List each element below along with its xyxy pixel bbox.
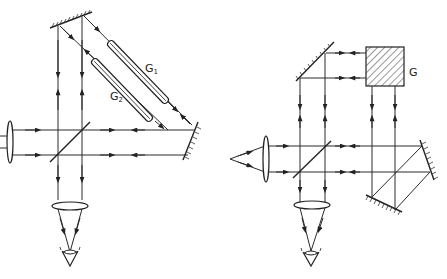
gas-cell-g bbox=[366, 47, 404, 86]
eyepiece-lens-left bbox=[52, 202, 88, 210]
bottom-mirror-right bbox=[366, 195, 402, 215]
top-left-mirror-right bbox=[296, 42, 334, 81]
source-lens-left bbox=[7, 121, 13, 163]
optical-diagram: G1 G2 bbox=[0, 0, 447, 279]
left-interferometer: G1 G2 bbox=[0, 10, 201, 266]
collimating-lens-right bbox=[263, 136, 269, 182]
right-interferometer: G bbox=[230, 42, 438, 266]
eye-left bbox=[60, 247, 80, 266]
label-g1: G1 bbox=[145, 62, 158, 76]
right-mirror-right bbox=[420, 140, 438, 180]
eyepiece-lens-right bbox=[294, 201, 330, 209]
right-mirror-left bbox=[183, 122, 201, 160]
label-g: G bbox=[409, 66, 418, 79]
eye-right bbox=[301, 248, 321, 266]
top-mirror-left bbox=[50, 10, 92, 28]
beam-splitter-left bbox=[50, 122, 90, 162]
